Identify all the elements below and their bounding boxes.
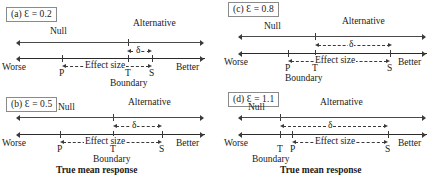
panel-c-axes: Null Alternative δ Worse Better Effect s… [222, 0, 438, 90]
caption-left: True mean response [56, 165, 137, 175]
delta-left-arrow [280, 124, 284, 128]
label-t: T [312, 63, 318, 73]
label-p: P [57, 144, 62, 154]
better-label: Better [398, 57, 421, 67]
null-line-left-arrow [238, 115, 242, 121]
response-axis [242, 134, 427, 135]
label-t: T [110, 144, 116, 154]
panel-a: (a) Ɛ = 0.2 Null Alternative δ Worse Bet… [0, 0, 216, 90]
boundary-label: Boundary [110, 78, 147, 88]
alternative-line [128, 42, 201, 43]
null-line-left-arrow [238, 34, 242, 40]
tick-s [162, 131, 163, 138]
tick-t [128, 55, 129, 62]
tick-p [288, 50, 289, 57]
label-s: S [149, 68, 154, 78]
label-p: P [290, 144, 295, 154]
response-axis-right-arrow [422, 51, 426, 57]
tick-s [152, 55, 153, 62]
delta-right-arrow [384, 124, 388, 128]
better-label: Better [176, 138, 199, 148]
label-p: P [59, 68, 64, 78]
delta-label: δ [135, 45, 141, 55]
boundary-label: Boundary [93, 154, 130, 164]
null-line-left-arrow [16, 115, 20, 121]
delta-left-arrow [127, 49, 131, 53]
response-axis-left-arrow [16, 56, 20, 62]
delta-left-arrow [315, 43, 319, 47]
tick-p [60, 131, 61, 138]
boundary-label: Boundary [252, 154, 289, 164]
panel-c: (c) Ɛ = 0.8 Null Alternative δ Worse Bet… [222, 0, 438, 90]
response-axis-right-arrow [200, 56, 204, 62]
effect-size-label: Effect size [314, 55, 356, 65]
null-line [242, 36, 315, 37]
null-label: Null [264, 21, 281, 31]
better-label: Better [398, 138, 421, 148]
panel-a-axes: Null Alternative δ Worse Better Effect s… [0, 0, 216, 90]
worse-label: Worse [2, 62, 26, 72]
delta-right-arrow [148, 49, 152, 53]
effect-size-label: Effect size [314, 136, 356, 146]
worse-label: Worse [2, 138, 26, 148]
null-line-left-arrow [16, 40, 20, 46]
null-label: Null [58, 102, 75, 112]
alternative-line-right-arrow [200, 40, 204, 46]
response-axis-right-arrow [422, 132, 426, 138]
delta-label: δ [348, 39, 354, 49]
null-line [242, 117, 280, 118]
null-label: Null [248, 102, 265, 112]
worse-label: Worse [224, 138, 248, 148]
worse-label: Worse [224, 57, 248, 67]
effect-size-label: Effect size [84, 136, 126, 146]
better-label: Better [176, 62, 199, 72]
delta-dash [116, 126, 160, 127]
null-line [20, 42, 128, 43]
caption-right: True mean response [280, 165, 361, 175]
alternative-line-right-arrow [200, 115, 204, 121]
delta-dash [283, 126, 386, 127]
label-p: P [285, 63, 290, 73]
response-axis [242, 53, 427, 54]
alternative-label: Alternative [342, 16, 385, 26]
response-axis-left-arrow [16, 132, 20, 138]
alternative-line-right-arrow [422, 34, 426, 40]
delta-right-arrow [388, 43, 392, 47]
tick-s [388, 131, 389, 138]
tick-s [390, 50, 391, 57]
label-s: S [159, 144, 164, 154]
label-s: S [385, 144, 390, 154]
delta-label: δ [327, 120, 333, 130]
tick-p [292, 131, 293, 138]
response-axis-left-arrow [238, 51, 242, 57]
alternative-label: Alternative [128, 97, 171, 107]
alternative-line [113, 117, 201, 118]
response-axis-left-arrow [238, 132, 242, 138]
alternative-line-right-arrow [422, 115, 426, 121]
alternative-line [280, 117, 423, 118]
boundary-label: Boundary [285, 73, 322, 83]
tick-p [62, 55, 63, 62]
label-s: S [387, 63, 392, 73]
alternative-line [315, 36, 423, 37]
effect-size-label: Effect size [84, 60, 126, 70]
label-t: T [125, 68, 131, 78]
label-t: T [277, 144, 283, 154]
tick-t [280, 131, 281, 138]
delta-label: δ [131, 120, 137, 130]
alternative-label: Alternative [320, 97, 363, 107]
response-axis [20, 58, 205, 59]
response-axis-right-arrow [200, 132, 204, 138]
null-label: Null [50, 26, 67, 36]
delta-left-arrow [113, 124, 117, 128]
delta-right-arrow [158, 124, 162, 128]
alternative-label: Alternative [133, 18, 176, 28]
null-line [20, 117, 113, 118]
